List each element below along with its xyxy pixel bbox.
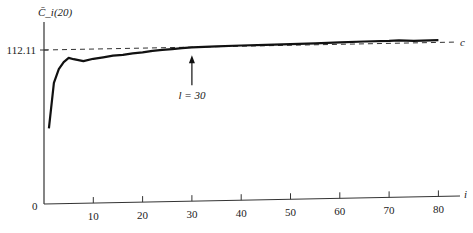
x-axis bbox=[44, 196, 460, 204]
x-tick-label: 80 bbox=[433, 203, 445, 215]
annotation-arrow-head bbox=[189, 55, 195, 63]
annotation-label: l = 30 bbox=[178, 89, 205, 101]
reference-line-label: c bbox=[460, 36, 465, 48]
x-tick-label: 30 bbox=[186, 208, 198, 220]
annotation: l = 30 bbox=[178, 55, 205, 101]
x-tick-label: 60 bbox=[334, 205, 346, 217]
x-tick-label: 20 bbox=[137, 209, 149, 221]
x-axis-label: i bbox=[464, 188, 467, 200]
axes: C̄_i(20) 112.11 0 i bbox=[7, 6, 468, 212]
x-tick-label: 70 bbox=[384, 204, 396, 216]
x-tick-label: 50 bbox=[285, 206, 297, 218]
x-tick-label: 40 bbox=[236, 207, 248, 219]
series-line bbox=[49, 40, 439, 128]
x-tick-label: 10 bbox=[88, 210, 100, 222]
chart: C̄_i(20) 112.11 0 i 1020304050607080 c l… bbox=[0, 0, 473, 233]
origin-label: 0 bbox=[32, 200, 38, 212]
y-tick-label: 112.11 bbox=[7, 44, 36, 56]
x-ticks: 1020304050607080 bbox=[88, 190, 445, 222]
y-axis-label: C̄_i(20) bbox=[38, 6, 73, 19]
